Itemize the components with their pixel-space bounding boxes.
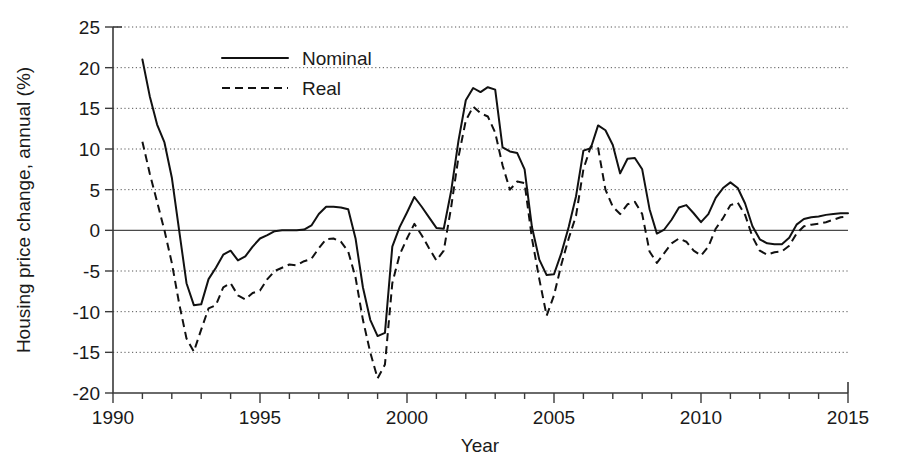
y-tick-label-5: 5 bbox=[89, 180, 100, 201]
y-tick-label--10: -10 bbox=[73, 302, 100, 323]
x-tick-label-2015: 2015 bbox=[827, 407, 869, 428]
y-tick-label--15: -15 bbox=[73, 342, 100, 363]
x-tick-label-1990: 1990 bbox=[92, 407, 134, 428]
x-tick-label-2000: 2000 bbox=[386, 407, 428, 428]
legend-label-nominal: Nominal bbox=[302, 48, 372, 69]
y-tick-label-20: 20 bbox=[79, 58, 100, 79]
chart-figure: 2520151050-5-10-15-201990199520002005201… bbox=[0, 0, 904, 461]
y-tick-label-15: 15 bbox=[79, 98, 100, 119]
legend-label-real: Real bbox=[302, 78, 341, 99]
y-tick-label--5: -5 bbox=[83, 261, 100, 282]
y-tick-label-10: 10 bbox=[79, 139, 100, 160]
x-tick-label-2005: 2005 bbox=[533, 407, 575, 428]
y-axis-title: Housing price change, annual (%) bbox=[13, 67, 34, 353]
housing-price-change-line-chart: 2520151050-5-10-15-201990199520002005201… bbox=[0, 0, 904, 461]
y-tick-label--20: -20 bbox=[73, 383, 100, 404]
x-tick-label-2010: 2010 bbox=[680, 407, 722, 428]
x-axis-title: Year bbox=[461, 435, 500, 456]
y-tick-label-0: 0 bbox=[89, 220, 100, 241]
y-tick-label-25: 25 bbox=[79, 17, 100, 38]
x-tick-label-1995: 1995 bbox=[239, 407, 281, 428]
